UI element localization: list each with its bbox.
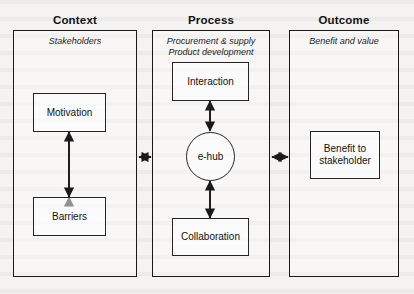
node-benefit-to-stakeholder: Benefit to stakeholder (310, 131, 380, 179)
node-interaction: Interaction (172, 62, 249, 101)
node-collaboration: Collaboration (172, 218, 249, 256)
figure-canvas: Context Process Outcome Stakeholders Pro… (0, 0, 414, 294)
node-e-hub: e-hub (186, 132, 235, 181)
figure-content: Context Process Outcome Stakeholders Pro… (0, 0, 414, 294)
node-barriers: Barriers (33, 197, 106, 236)
node-motivation: Motivation (33, 93, 106, 132)
